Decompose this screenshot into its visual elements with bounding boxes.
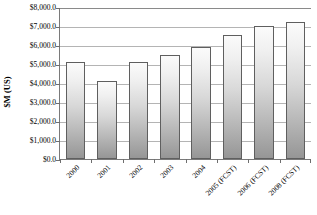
x-axis-tick-label: 2002 [127,163,144,180]
bar[interactable] [129,62,148,159]
x-axis-tick-label: 2001 [96,163,113,180]
bar-slot [248,8,279,159]
bar[interactable] [66,62,85,159]
plot-area [59,8,311,160]
bar[interactable] [254,26,273,159]
y-axis-tick-label: $6,000.0 [10,42,56,50]
bar[interactable] [160,55,179,159]
y-axis-tick-labels: $8,000.0$7,000.0$6,000.0$5,000.0$4,000.0… [10,8,56,160]
y-axis-tick-label: $1,000.0 [10,137,56,145]
bar-slot [186,8,217,159]
bar-slot [154,8,185,159]
y-axis-tick-label: $2,000.0 [10,118,56,126]
y-axis-tick-label: $0.0 [10,156,56,164]
y-axis-tick-label: $5,000.0 [10,61,56,69]
bar-slot [91,8,122,159]
x-axis-tick-labels: 200020012002200320042005 (FCST)2006 (FCS… [59,161,311,215]
bar-series [60,8,311,159]
x-axis-label-slot: 2008 (FCST) [280,161,312,215]
bar[interactable] [97,81,116,159]
bar-slot [123,8,154,159]
bar-chart: $M (US) $8,000.0$7,000.0$6,000.0$5,000.0… [0,0,317,215]
y-axis-tick-label: $3,000.0 [10,99,56,107]
bar-slot [60,8,91,159]
bar[interactable] [223,35,242,159]
x-axis-tick-label: 2003 [159,163,176,180]
bar[interactable] [286,22,305,159]
x-axis-tick-label: 2000 [64,163,81,180]
x-axis-label-slot: 2003 [154,161,186,215]
bar[interactable] [191,47,210,159]
x-axis-label-slot: 2002 [122,161,154,215]
y-axis-tick-label: $7,000.0 [10,23,56,31]
bar-slot [217,8,248,159]
y-axis-tick-label: $4,000.0 [10,80,56,88]
x-axis-label-slot: 2001 [91,161,123,215]
bar-slot [280,8,311,159]
x-axis-tick-label: 2004 [190,163,207,180]
y-axis-tick-label: $8,000.0 [10,4,56,12]
x-axis-label-slot: 2000 [59,161,91,215]
